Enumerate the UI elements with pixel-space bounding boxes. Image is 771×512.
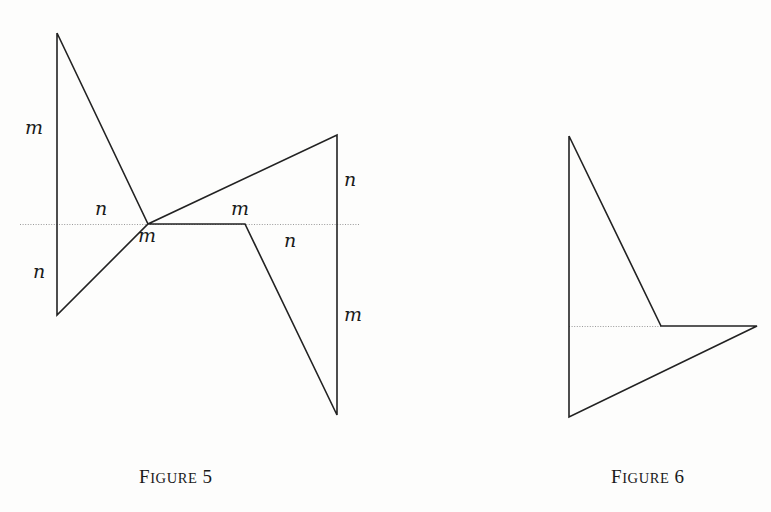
figure-page: m n n m m n n m FIGURE5 FIGURE6 bbox=[0, 0, 771, 512]
label-m-peak: m bbox=[231, 199, 249, 218]
figures-canvas bbox=[0, 0, 771, 512]
caption-figure-5: FIGURE5 bbox=[139, 466, 212, 488]
caption-figure-5-number: 5 bbox=[202, 466, 212, 487]
caption-figure-5-rest: IGURE bbox=[150, 470, 197, 486]
label-m-upper-left: m bbox=[25, 118, 43, 137]
caption-figure-5-first: F bbox=[139, 466, 150, 487]
figure-6-polygon bbox=[569, 136, 757, 417]
label-m-lower-right: m bbox=[344, 305, 362, 324]
caption-figure-6-number: 6 bbox=[674, 466, 684, 487]
label-n-lower-mid: n bbox=[284, 231, 296, 250]
label-n-lower-left: n bbox=[33, 262, 45, 281]
caption-figure-6-rest: IGURE bbox=[622, 470, 669, 486]
figure-6-graphic bbox=[569, 136, 757, 417]
label-n-upper-mid: n bbox=[95, 199, 107, 218]
label-m-valley: m bbox=[138, 226, 156, 245]
figure-5-graphic bbox=[20, 33, 360, 415]
caption-figure-6-first: F bbox=[611, 466, 622, 487]
caption-figure-6: FIGURE6 bbox=[611, 466, 684, 488]
label-n-upper-right: n bbox=[344, 170, 356, 189]
